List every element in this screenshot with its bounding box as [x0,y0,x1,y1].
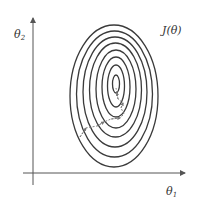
theta1-axis-label: θ1 [166,185,177,199]
contour-ring-8 [113,75,120,93]
contour-ring-6 [102,57,130,117]
cost-function-label: J(θ) [160,24,182,37]
theta2-axis-label: θ2 [14,28,26,42]
contour-ellipses [70,25,158,167]
contour-ring-7 [108,65,125,107]
contour-diagram: J(θ) θ2 θ1 [0,0,201,203]
